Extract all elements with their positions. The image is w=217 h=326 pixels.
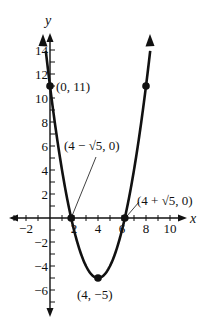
data-point xyxy=(67,214,75,222)
x-tick-label: 8 xyxy=(143,221,150,236)
y-tick-label: 10 xyxy=(35,91,48,106)
leader-line-left-root xyxy=(72,157,96,216)
point-labels: (0, 11) (4 − √5, 0) (4 + √5, 0) (4, −5) xyxy=(56,79,193,302)
label-vertex: (4, −5) xyxy=(77,287,113,302)
label-left-root: (4 − √5, 0) xyxy=(64,138,120,153)
data-point xyxy=(142,82,150,90)
label-right-root: (4 + √5, 0) xyxy=(137,193,193,208)
y-axis-label: y xyxy=(43,13,52,28)
key-points xyxy=(46,82,150,282)
y-axis-up-arrow-icon xyxy=(47,33,54,42)
tick-labels: −2246810−6−4−22468101214 xyxy=(19,43,176,298)
y-tick-label: −2 xyxy=(34,235,48,250)
x-axis-label: x xyxy=(189,211,197,226)
y-tick-label: 4 xyxy=(42,163,49,178)
x-axis-right-arrow-icon xyxy=(178,215,187,222)
label-y-intercept: (0, 11) xyxy=(56,79,90,94)
y-tick-label: 2 xyxy=(42,187,49,202)
y-tick-label: 8 xyxy=(42,115,49,130)
y-tick-label: −6 xyxy=(34,283,48,298)
data-point xyxy=(94,274,102,282)
data-point xyxy=(121,214,129,222)
x-tick-label: −2 xyxy=(19,221,33,236)
x-tick-label: 4 xyxy=(95,221,102,236)
y-tick-label: 12 xyxy=(35,67,48,82)
axes: −2246810−6−4−22468101214 x y xyxy=(9,13,197,317)
y-tick-label: 6 xyxy=(42,139,49,154)
leader-lines xyxy=(72,157,139,216)
parabola-graph: −2246810−6−4−22468101214 x y (0, 11) (4 … xyxy=(0,0,217,326)
y-axis-down-arrow-icon xyxy=(47,308,54,317)
curve-right-arrow-icon xyxy=(146,34,155,47)
data-point xyxy=(46,82,54,90)
x-tick-label: 10 xyxy=(164,221,177,236)
curve-left-arrow-icon xyxy=(39,34,48,47)
y-tick-label: −4 xyxy=(34,259,48,274)
